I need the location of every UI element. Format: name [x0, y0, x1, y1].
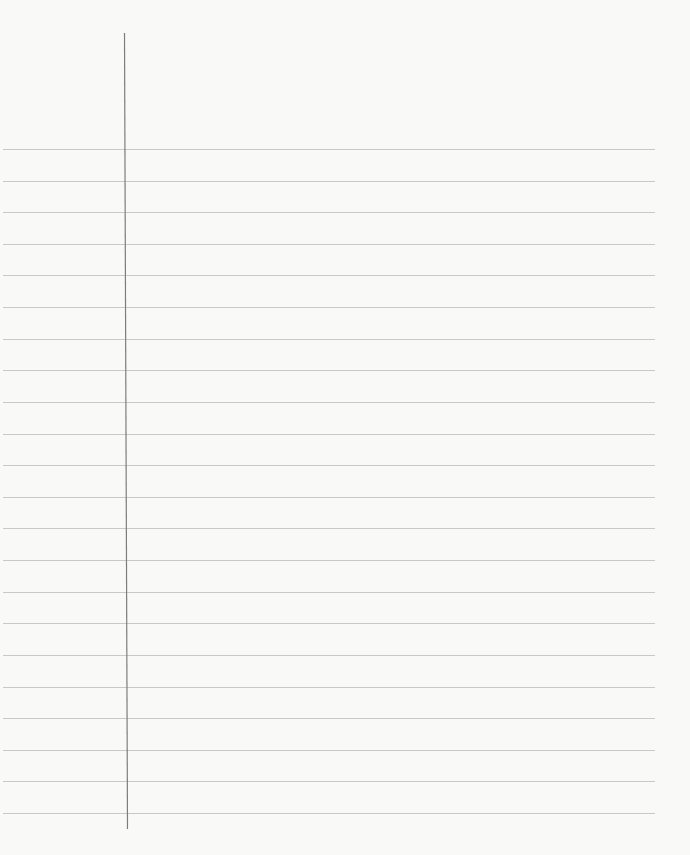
- paper-rules: [0, 0, 690, 855]
- lined-paper-sheet: [0, 0, 690, 855]
- margin-line: [125, 33, 128, 829]
